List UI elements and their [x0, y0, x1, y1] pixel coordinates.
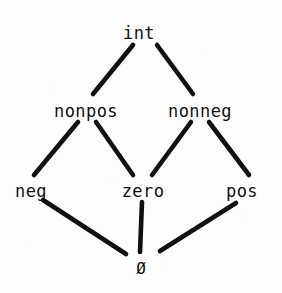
- edge-nonpos-to-zero: [96, 122, 133, 175]
- node-label-int: int: [123, 25, 155, 42]
- node-label-zero: zero: [122, 183, 165, 200]
- edge-pos-to-empty: [160, 203, 236, 251]
- edge-int-to-nonpos: [93, 45, 133, 94]
- node-label-neg: neg: [15, 183, 47, 200]
- node-label-pos: pos: [226, 183, 258, 200]
- node-label-nonpos: nonpos: [54, 103, 118, 120]
- node-label-nonneg: nonneg: [168, 103, 232, 120]
- edge-nonneg-to-zero: [152, 122, 191, 175]
- edge-zero-to-empty: [140, 202, 142, 252]
- edge-neg-to-empty: [43, 200, 126, 254]
- edges-group: [34, 45, 249, 254]
- edge-layer: [0, 0, 282, 293]
- lattice-diagram: intnonposnonnegnegzeroposØ: [0, 0, 282, 293]
- node-label-empty: Ø: [136, 260, 146, 277]
- edge-nonneg-to-pos: [209, 122, 249, 175]
- edge-int-to-nonneg: [157, 45, 193, 94]
- edge-nonpos-to-neg: [34, 122, 78, 175]
